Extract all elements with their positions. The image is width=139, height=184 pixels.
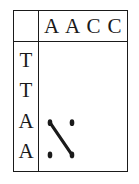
matrix-body: T T A A bbox=[14, 42, 127, 171]
row-label-group: T T A A bbox=[14, 42, 39, 171]
alignment-dot-plot-matrix: A A C C T T A A bbox=[13, 10, 128, 172]
row-label-0: T bbox=[20, 50, 33, 71]
column-label-2: C bbox=[83, 16, 104, 37]
column-label-group: A A C C bbox=[39, 11, 127, 41]
match-dot-0 bbox=[48, 119, 53, 126]
match-dot-2 bbox=[48, 151, 53, 158]
column-header-row: A A C C bbox=[14, 11, 127, 42]
row-label-2: A bbox=[18, 111, 33, 132]
match-dot-1 bbox=[70, 119, 75, 126]
match-dot-3 bbox=[70, 151, 75, 158]
corner-cell bbox=[14, 11, 39, 41]
match-line-0 bbox=[50, 123, 72, 155]
row-label-1: T bbox=[20, 80, 33, 101]
column-label-0: A bbox=[41, 16, 62, 37]
column-label-1: A bbox=[62, 16, 83, 37]
column-label-3: C bbox=[104, 16, 125, 37]
row-label-3: A bbox=[18, 141, 33, 162]
plot-area bbox=[39, 42, 127, 171]
dot-plot-canvas bbox=[39, 42, 127, 171]
match-line-group bbox=[50, 123, 72, 155]
